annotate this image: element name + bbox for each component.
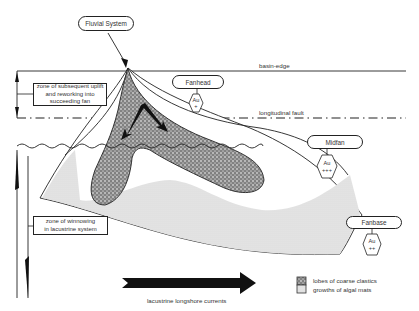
alluvial-fan-diagram bbox=[0, 0, 419, 311]
uplift-zone-line-2: and reworking into bbox=[34, 91, 106, 99]
fanbase-grade: ++ bbox=[369, 245, 376, 251]
legend-label-fine: growths of algal mats bbox=[313, 287, 371, 293]
fanhead-label: Fanhead bbox=[172, 75, 224, 89]
uplift-zone-line-3: succeeding fan bbox=[34, 98, 106, 106]
fluvial-arrowhead bbox=[121, 58, 128, 68]
uplift-zone-line-1: zone of subsequent uplift bbox=[34, 83, 106, 91]
winnowing-up-arrow bbox=[15, 150, 19, 190]
midfan-gold-grade: Au +++ bbox=[317, 155, 337, 178]
fanbase-label: Fanbase bbox=[346, 216, 402, 229]
winnowing-zone-line-2: in lacustrine system bbox=[34, 226, 107, 234]
longshore-current-arrow bbox=[122, 272, 256, 294]
fanhead-gold-grade: Au + bbox=[187, 94, 205, 112]
midfan-label: Midfan bbox=[307, 135, 363, 149]
fanbase-gold-grade: Au ++ bbox=[363, 234, 381, 255]
legend-swatch-fine bbox=[297, 285, 306, 293]
midfan-grade: +++ bbox=[322, 167, 332, 173]
uplift-up-arrow bbox=[15, 72, 19, 82]
fanhead-grade: + bbox=[194, 103, 197, 109]
legend-swatch-coarse bbox=[297, 277, 306, 285]
longshore-currents-label: lacustrine longshore currents bbox=[147, 298, 226, 304]
winnowing-zone-line-1: zone of winnowing bbox=[34, 218, 107, 226]
legend-label-coarse: lobes of coarse clastics bbox=[313, 278, 377, 284]
basin-edge-label: basin-edge bbox=[259, 63, 290, 69]
uplift-zone-box: zone of subsequent uplift and reworking … bbox=[33, 83, 107, 106]
uplift-down-arrow bbox=[15, 107, 19, 117]
longitudinal-fault-label: longitudinal fault bbox=[259, 110, 304, 116]
winnowing-zone-box: zone of winnowing in lacustrine system bbox=[33, 216, 108, 235]
fluvial-system-label: Fluvial System bbox=[78, 16, 134, 31]
